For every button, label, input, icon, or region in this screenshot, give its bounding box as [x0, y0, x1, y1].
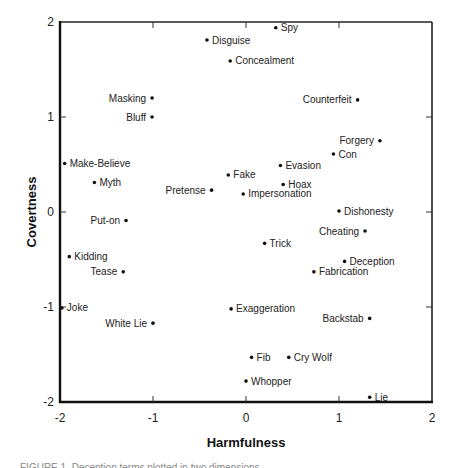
point-label: Forgery: [339, 135, 373, 146]
data-point: Cheating: [319, 226, 367, 237]
point-marker: [227, 173, 231, 177]
data-point: Evasion: [279, 160, 321, 171]
x-tick-label: 2: [429, 411, 436, 425]
data-point: Tease: [91, 266, 125, 277]
point-marker: [368, 395, 372, 399]
data-point: Put-on: [91, 215, 128, 226]
scatter-chart: -2-1012-2-1012 SpyDisguiseConcealmentMas…: [0, 0, 452, 468]
point-marker: [337, 209, 341, 213]
point-label: Impersonation: [248, 188, 311, 199]
point-label: Lie: [375, 392, 389, 403]
x-tick-label: -2: [55, 411, 66, 425]
x-tick-label: 1: [336, 411, 343, 425]
y-tick-label: 2: [47, 15, 54, 29]
point-marker: [228, 59, 232, 63]
point-marker: [151, 321, 155, 325]
point-label: Spy: [281, 22, 298, 33]
x-axis-title: Harmfulness: [207, 435, 286, 450]
data-point: Con: [332, 149, 357, 160]
point-marker: [287, 356, 291, 360]
data-point: Spy: [274, 22, 298, 33]
x-tick-label: -1: [148, 411, 159, 425]
data-point: Joke: [60, 302, 88, 313]
point-label: Put-on: [91, 215, 120, 226]
point-label: Fib: [257, 352, 271, 363]
point-marker: [68, 255, 72, 259]
point-label: Disguise: [212, 35, 251, 46]
point-label: Fabrication: [319, 266, 368, 277]
point-marker: [124, 219, 128, 223]
point-marker: [368, 317, 372, 321]
y-tick-label: -1: [43, 300, 54, 314]
point-label: Evasion: [285, 160, 321, 171]
point-label: Cry Wolf: [294, 352, 332, 363]
y-tick-label: 0: [47, 205, 54, 219]
point-marker: [250, 356, 254, 360]
data-point: White Lie: [105, 318, 154, 329]
point-marker: [244, 379, 248, 383]
point-label: Fake: [233, 169, 256, 180]
point-label: Pretense: [166, 185, 206, 196]
point-label: Deception: [350, 256, 395, 267]
data-point: Make-Believe: [63, 158, 131, 169]
y-axis-title: Covertness: [24, 177, 39, 248]
data-point: Counterfeit: [303, 94, 360, 105]
data-point: Forgery: [339, 135, 381, 146]
point-marker: [332, 152, 336, 156]
point-label: Masking: [109, 93, 146, 104]
y-tick-label: -2: [43, 395, 54, 409]
point-label: Kidding: [74, 251, 107, 262]
point-label: Backstab: [323, 313, 365, 324]
y-tick-label: 1: [47, 110, 54, 124]
point-label: Bluff: [126, 112, 146, 123]
point-marker: [378, 139, 382, 143]
point-label: Myth: [99, 177, 121, 188]
point-label: Con: [338, 149, 356, 160]
figure-caption: FIGURE 1. Deception terms plotted in two…: [20, 458, 260, 468]
point-marker: [210, 188, 214, 192]
data-point: Myth: [93, 177, 121, 188]
point-label: Dishonesty: [344, 206, 393, 217]
x-tick-label: 0: [243, 411, 250, 425]
point-marker: [63, 162, 67, 166]
point-label: Trick: [270, 238, 292, 249]
point-marker: [150, 96, 154, 100]
point-label: Concealment: [235, 55, 294, 66]
point-marker: [229, 307, 233, 311]
point-marker: [241, 192, 245, 196]
data-point: Impersonation: [241, 188, 311, 199]
point-marker: [274, 26, 278, 30]
data-point: Trick: [263, 238, 292, 249]
data-point: Whopper: [244, 376, 292, 387]
data-point: Backstab: [323, 313, 372, 324]
data-point: Deception: [343, 256, 395, 267]
point-marker: [356, 98, 360, 102]
data-point: Fib: [250, 352, 271, 363]
data-point: Fabrication: [312, 266, 368, 277]
point-marker: [205, 38, 209, 42]
point-label: White Lie: [105, 318, 147, 329]
data-point: Disguise: [205, 35, 251, 46]
point-marker: [343, 260, 347, 264]
point-marker: [312, 270, 316, 274]
data-point: Concealment: [228, 55, 294, 66]
point-label: Exaggeration: [236, 303, 295, 314]
point-marker: [93, 181, 97, 185]
point-label: Counterfeit: [303, 94, 352, 105]
data-point: Kidding: [68, 251, 108, 262]
point-label: Tease: [91, 266, 118, 277]
point-marker: [60, 306, 64, 310]
point-label: Joke: [67, 302, 89, 313]
data-point: Fake: [227, 169, 256, 180]
point-marker: [263, 242, 267, 246]
point-marker: [121, 270, 125, 274]
point-marker: [281, 183, 285, 187]
point-marker: [279, 164, 283, 168]
data-point: Masking: [109, 93, 154, 104]
point-label: Cheating: [319, 226, 359, 237]
point-label: Make-Believe: [70, 158, 131, 169]
data-point: Cry Wolf: [287, 352, 332, 363]
point-label: Whopper: [251, 376, 292, 387]
data-points: SpyDisguiseConcealmentMaskingBluffCounte…: [60, 22, 395, 403]
data-point: Exaggeration: [229, 303, 295, 314]
